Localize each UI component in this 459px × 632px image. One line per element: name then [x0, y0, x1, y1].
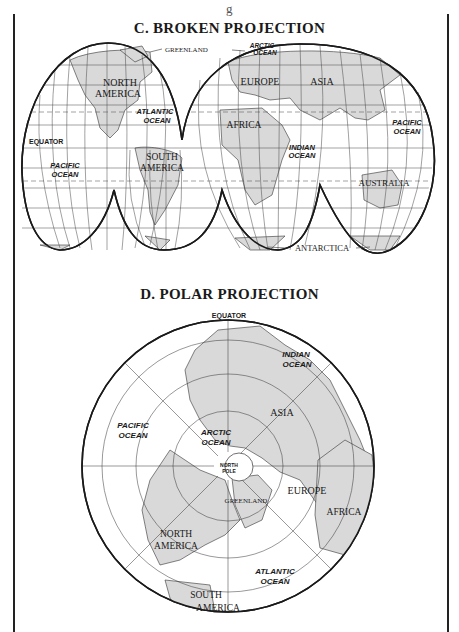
- polar-label-indian-ocean-1: INDIAN: [282, 350, 310, 359]
- label-south-america-1: SOUTH: [146, 152, 178, 162]
- label-australia: AUSTRALIA: [359, 178, 410, 188]
- polar-label-north-america-2: AMERICA: [154, 541, 198, 551]
- label-south-america-2: AMERICA: [140, 163, 184, 173]
- label-arctic-ocean-2: OCEAN: [253, 49, 277, 56]
- label-europe: EUROPE: [241, 76, 280, 87]
- polar-label-atlantic-ocean-2: OCEAN: [261, 577, 290, 586]
- polar-label-africa: AFRICA: [327, 507, 362, 517]
- polar-label-europe: EUROPE: [288, 485, 327, 496]
- label-north-america-2: AMERICA: [95, 88, 142, 99]
- label-asia: ASIA: [310, 76, 334, 87]
- label-arctic-ocean-1: ARCTIC: [249, 42, 275, 49]
- label-atlantic-ocean-1: ATLANTIC: [136, 107, 175, 116]
- polar-label-arctic-ocean-1: ARCTIC: [200, 428, 231, 437]
- label-pacific-ocean-east-2: OCEAN: [393, 127, 421, 136]
- label-pacific-ocean-west-2: OCEAN: [51, 170, 79, 179]
- label-pacific-ocean-east-1: PACIFIC: [392, 118, 422, 127]
- polar-label-south-america-1: SOUTH: [190, 590, 222, 600]
- polar-label-greenland: GREENLAND: [225, 497, 268, 505]
- polar-projection-map: EQUATOR INDIAN OCEAN ASIA PACIFIC OCEAN …: [82, 312, 376, 613]
- polar-label-pacific-ocean-1: PACIFIC: [117, 421, 149, 430]
- polar-label-pacific-ocean-2: OCEAN: [119, 431, 148, 440]
- polar-label-north-pole-2: POLE: [222, 468, 236, 474]
- polar-label-equator: EQUATOR: [212, 312, 246, 320]
- label-indian-ocean-2: OCEAN: [288, 151, 316, 160]
- polar-label-asia: ASIA: [270, 407, 294, 418]
- label-africa: AFRICA: [227, 120, 262, 130]
- label-greenland: GREENLAND: [165, 46, 208, 54]
- polar-label-north-america-1: NORTH: [160, 529, 192, 539]
- label-atlantic-ocean-2: OCEAN: [143, 116, 171, 125]
- label-north-america-1: NORTH: [103, 77, 137, 88]
- label-equator: EQUATOR: [29, 138, 63, 146]
- polar-label-arctic-ocean-2: OCEAN: [202, 438, 231, 447]
- broken-projection-map: GREENLAND ARCTIC OCEAN NORTH AMERICA EUR…: [15, 42, 440, 253]
- polar-label-south-america-2: AMERICA: [196, 603, 240, 613]
- label-antarctica: ANTARCTICA: [295, 243, 350, 253]
- label-pacific-ocean-west-1: PACIFIC: [50, 161, 80, 170]
- polar-label-indian-ocean-2: OCEAN: [283, 360, 312, 369]
- polar-label-atlantic-ocean-1: ATLANTIC: [254, 567, 295, 576]
